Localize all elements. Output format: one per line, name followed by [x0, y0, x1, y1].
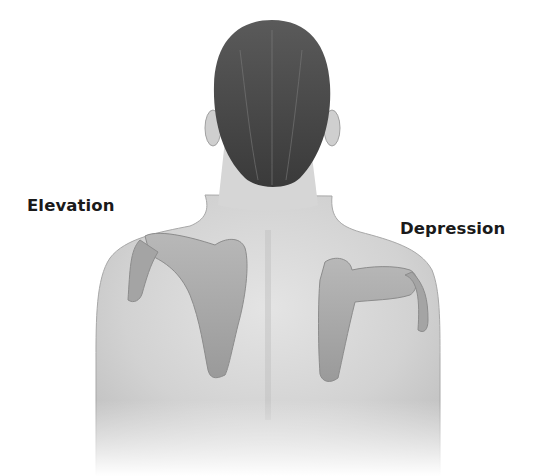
diagram-canvas [0, 0, 535, 476]
bottom-fade [90, 400, 450, 476]
back-illustration [0, 0, 535, 476]
label-elevation: Elevation [27, 196, 115, 215]
label-depression: Depression [400, 219, 505, 238]
